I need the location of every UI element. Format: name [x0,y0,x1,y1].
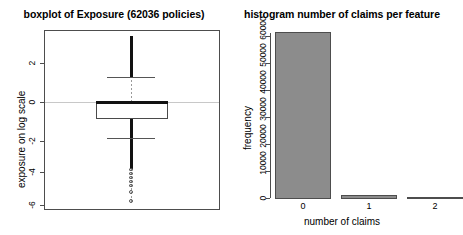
histogram-y-ticklabel-20000: 20000 [258,121,268,151]
boxplot-outlier [129,184,133,187]
histogram-x-ticklabel-2: 2 [420,201,450,211]
boxplot-median-line [96,101,168,104]
histogram-y-axis-line [270,33,271,198]
histogram-y-ticklabel-50000: 50000 [258,40,268,70]
boxplot-lower-whisker [130,119,133,169]
boxplot-y-ticklabel-neg6: -6 [27,198,37,212]
boxplot-upper-whisker-cap [107,77,155,78]
histogram-bar-2 [407,197,463,199]
histogram-y-ticklabel-0: 0 [258,192,268,204]
histogram-y-ticklabel-60000: 60000 [258,13,268,43]
boxplot-y-ticklabel-neg2: -2 [27,134,37,148]
histogram-bar-1 [341,195,397,199]
boxplot-outlier [129,172,133,175]
histogram-y-axis-label: frequency [242,106,253,150]
histogram-y-ticklabel-40000: 40000 [258,67,268,97]
boxplot-y-ticklabel-neg4: -4 [27,165,37,179]
boxplot-outlier [129,190,133,194]
boxplot-upper-tail [130,36,133,78]
boxplot-outlier [129,176,133,179]
boxplot-y-ticklabel-2: 2 [27,57,37,69]
histogram-bar-0 [275,32,331,199]
boxplot-title: boxplot of Exposure (62036 policies) [0,8,228,20]
histogram-panel: histogram number of claims per feature f… [228,0,456,235]
boxplot-outlier [129,168,133,171]
histogram-y-ticklabel-30000: 30000 [258,94,268,124]
boxplot-y-axis-label: exposure on log scale [16,91,27,188]
histogram-x-ticklabel-1: 1 [354,201,384,211]
boxplot-outlier [129,199,133,203]
boxplot-outlier [129,180,133,183]
boxplot-panel: boxplot of Exposure (62036 policies) exp… [0,0,228,235]
boxplot-lower-whisker-cap [107,138,155,139]
histogram-x-axis-label: number of claims [228,216,456,227]
histogram-y-ticklabel-10000: 10000 [258,148,268,178]
histogram-x-ticklabel-0: 0 [288,201,318,211]
boxplot-iqr-box [96,103,168,119]
boxplot-y-ticklabel-0: 0 [27,96,37,108]
